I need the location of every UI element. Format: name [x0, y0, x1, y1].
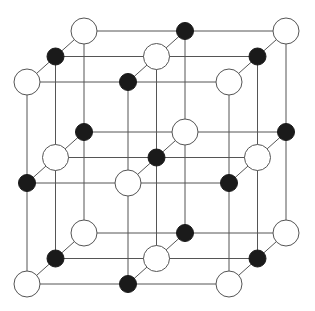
white-ion-atom: [216, 69, 242, 95]
black-ion-atom: [221, 175, 238, 192]
white-ion-atom: [172, 119, 198, 145]
black-ion-atom: [120, 276, 137, 293]
black-ion-atom: [47, 48, 64, 65]
white-ion-atom: [216, 271, 242, 297]
crystal-lattice-diagram: [0, 0, 315, 311]
white-ion-atom: [14, 69, 40, 95]
black-ion-atom: [76, 124, 93, 141]
white-ion-atom: [71, 18, 97, 44]
white-ion-atom: [144, 246, 170, 272]
white-ion-atom: [273, 18, 299, 44]
white-ion-atom: [144, 44, 170, 70]
black-ion-atom: [148, 149, 165, 166]
black-ion-atom: [120, 74, 137, 91]
black-ion-atom: [177, 225, 194, 242]
white-ion-atom: [71, 220, 97, 246]
lattice-atoms: [14, 18, 299, 297]
black-ion-atom: [278, 124, 295, 141]
white-ion-atom: [245, 145, 271, 171]
black-ion-atom: [249, 250, 266, 267]
white-ion-atom: [273, 220, 299, 246]
white-ion-atom: [43, 145, 69, 171]
white-ion-atom: [115, 170, 141, 196]
black-ion-atom: [249, 48, 266, 65]
white-ion-atom: [14, 271, 40, 297]
black-ion-atom: [47, 250, 64, 267]
black-ion-atom: [19, 175, 36, 192]
black-ion-atom: [177, 23, 194, 40]
